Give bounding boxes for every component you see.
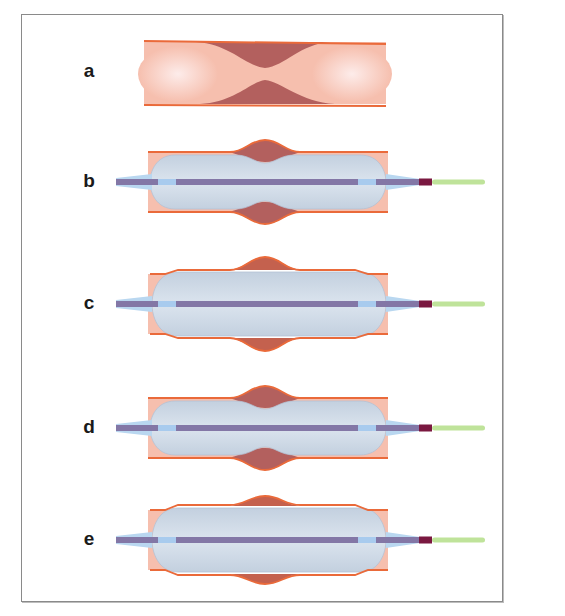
catheter-hub	[419, 537, 432, 544]
marker-band-left	[158, 537, 176, 543]
panel-e	[116, 496, 485, 584]
catheter-hub	[419, 301, 432, 308]
guidewire	[432, 426, 485, 431]
marker-band-left	[158, 179, 176, 185]
marker-band-left	[158, 425, 176, 431]
marker-band-right	[358, 301, 376, 307]
marker-band-right	[358, 425, 376, 431]
guidewire	[432, 302, 485, 307]
vessel-wall-bottom	[144, 105, 386, 106]
angioplasty-diagram	[0, 0, 565, 616]
lumen-highlight-right	[312, 46, 392, 102]
marker-band-right	[358, 537, 376, 543]
guidewire	[432, 180, 485, 185]
marker-band-right	[358, 179, 376, 185]
panel-d	[116, 386, 485, 470]
lumen-highlight-left	[138, 46, 218, 102]
marker-band-left	[158, 301, 176, 307]
guidewire	[432, 538, 485, 543]
panel-b	[116, 140, 485, 224]
panel-c	[116, 257, 485, 351]
panel-a	[138, 41, 392, 106]
catheter-hub	[419, 425, 432, 432]
catheter-hub	[419, 179, 432, 186]
